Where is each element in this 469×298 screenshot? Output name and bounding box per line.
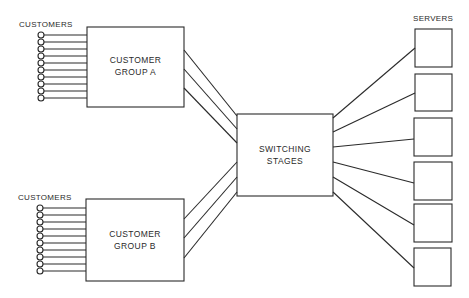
customer-group-a-label: CUSTOMER GROUP A	[87, 54, 184, 78]
switching-stages-line1: SWITCHING	[237, 143, 333, 155]
customer-terminals-group-b	[37, 205, 43, 274]
customer-lines-group-b	[43, 208, 86, 271]
trunks-group-b-to-switch	[184, 162, 237, 258]
server-boxes	[414, 29, 452, 286]
customer-group-b-line1: CUSTOMER	[86, 228, 184, 240]
customer-group-b-line2: GROUP B	[86, 240, 184, 252]
server-2	[415, 74, 452, 111]
customer-group-b-label: CUSTOMER GROUP B	[86, 228, 184, 252]
server-6	[414, 248, 451, 286]
customer-terminals-group-a	[38, 32, 44, 101]
customers-label-top: CUSTOMERS	[19, 20, 73, 29]
server-4	[414, 162, 452, 200]
server-5	[414, 204, 452, 242]
server-3	[414, 118, 452, 156]
server-1	[415, 29, 452, 67]
diagram-canvas	[0, 0, 469, 298]
customers-label-bottom: CUSTOMERS	[18, 193, 72, 202]
links-switch-to-servers	[333, 48, 415, 268]
customer-group-a-line1: CUSTOMER	[87, 54, 184, 66]
servers-label: SERVERS	[413, 14, 453, 23]
trunks-group-a-to-switch	[184, 50, 237, 143]
customer-group-a-line2: GROUP A	[87, 66, 184, 78]
customer-lines-group-a	[44, 35, 87, 98]
switching-stages-line2: STAGES	[237, 155, 333, 167]
switching-stages-label: SWITCHING STAGES	[237, 143, 333, 167]
switching-network-diagram: CUSTOMERS CUSTOMERS SERVERS CUSTOMER GRO…	[0, 0, 469, 298]
